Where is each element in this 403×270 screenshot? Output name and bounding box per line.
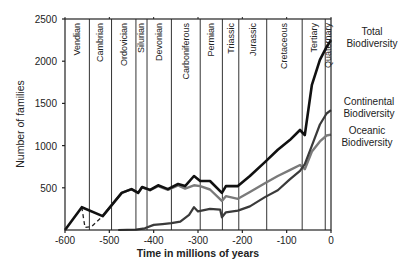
y-tick-label: 1500 [35,98,58,109]
legend-total-line2: Biodiversity [346,38,397,49]
period-lines: VendianCambrianOrdovicianSilurianDevonia… [72,19,333,230]
period-label: Carboniferous [181,23,191,80]
y-tick-label: 1000 [35,141,58,152]
period-label: Cretaceous [279,23,289,70]
legend-continental-line2: Biodiversity [343,108,394,119]
x-tick-label: -200 [232,235,252,246]
y-axis-title: Number of families [14,80,26,168]
x-tick-label: -500 [99,235,119,246]
x-tick-label: 0 [328,235,334,246]
period-label: Vendian [72,23,82,56]
legend-oceanic-line2: Biodiversity [341,137,392,148]
legend-continental-line1: Continental [344,96,395,107]
x-tick-label: -300 [188,235,208,246]
biodiversity-chart: VendianCambrianOrdovicianSilurianDevonia… [0,0,403,270]
period-label: Silurian [136,23,146,53]
period-label: Triassic [226,23,236,54]
oceanic-line [103,135,331,217]
legend-oceanic: Oceanic Biodiversity [341,125,392,148]
y-tick-label: 2500 [35,14,58,25]
x-axis-title: Time in millions of years [137,247,260,259]
period-label: Cambrian [95,23,105,62]
legend-total: Total Biodiversity [346,26,397,49]
series-lines [65,40,331,230]
y-tick-label: 500 [40,183,57,194]
legend-total-line1: Total [361,26,382,37]
period-label: Permian [206,23,216,57]
y-tick-label: 2000 [35,56,58,67]
legend-continental: Continental Biodiversity [343,96,394,119]
period-label: Tertiary [309,23,319,53]
period-label: Jurassic [248,23,258,57]
period-label: Devonian [154,23,164,61]
period-label: Ordovician [119,23,129,66]
x-tick-label: -400 [144,235,164,246]
total-biodiversity-line [65,40,331,230]
legend-oceanic-line1: Oceanic [349,125,386,136]
x-tick-label: -600 [55,235,75,246]
continental-biodiversity-line [118,110,331,230]
x-tick-label: -100 [277,235,297,246]
